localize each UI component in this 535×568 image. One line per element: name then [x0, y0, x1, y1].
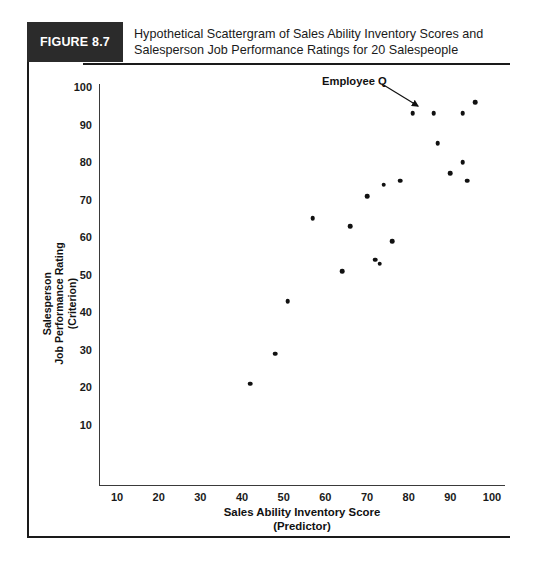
x-axis-title: Sales Ability Inventory Score (Predictor…: [99, 506, 505, 533]
employee-q-annotation-arrow: [380, 82, 430, 112]
x-tick-label-70: 70: [347, 491, 387, 503]
data-point: [473, 100, 478, 105]
y-axis-title: Salesperson Job Performance Rating (Crit…: [41, 204, 78, 404]
data-point: [398, 179, 403, 184]
scatter-plot: 102030405060708090100 102030405060708090…: [0, 0, 535, 568]
x-tick-label-10: 10: [97, 491, 137, 503]
data-point: [348, 224, 353, 229]
data-point: [286, 299, 291, 304]
y-tick-label-90: 90: [62, 119, 92, 131]
x-tick-label-80: 80: [389, 491, 429, 503]
y-axis-title-line-1: Salesperson: [41, 204, 53, 404]
y-axis-line: [99, 84, 100, 486]
x-tick-label-20: 20: [139, 491, 179, 503]
data-point: [311, 216, 316, 221]
data-point: [465, 179, 470, 184]
employee-q-annotation-label: Employee Q: [322, 75, 387, 87]
x-tick-label-90: 90: [430, 491, 470, 503]
data-point: [248, 381, 253, 386]
data-point: [461, 111, 466, 116]
x-axis-title-line-1: Sales Ability Inventory Score: [99, 506, 505, 520]
data-point: [340, 269, 345, 274]
y-tick-label-100: 100: [62, 81, 92, 93]
y-tick-label-80: 80: [62, 156, 92, 168]
x-axis-title-line-2: (Predictor): [99, 520, 505, 534]
x-tick-label-60: 60: [305, 491, 345, 503]
x-axis-line: [99, 485, 505, 486]
y-axis-title-line-3: (Criterion): [66, 204, 78, 404]
x-tick-label-50: 50: [264, 491, 304, 503]
data-point: [431, 111, 436, 116]
data-point: [390, 239, 395, 244]
y-tick-label-10: 10: [62, 419, 92, 431]
x-tick-label-100: 100: [472, 491, 512, 503]
data-point: [436, 141, 441, 146]
x-tick-label-30: 30: [180, 491, 220, 503]
data-point: [365, 194, 370, 199]
data-point: [461, 160, 466, 165]
data-point: [381, 182, 386, 187]
data-point: [273, 351, 278, 356]
x-tick-label-40: 40: [222, 491, 262, 503]
data-point: [377, 261, 382, 266]
data-point: [448, 171, 453, 176]
y-axis-title-line-2: Job Performance Rating: [54, 204, 66, 404]
